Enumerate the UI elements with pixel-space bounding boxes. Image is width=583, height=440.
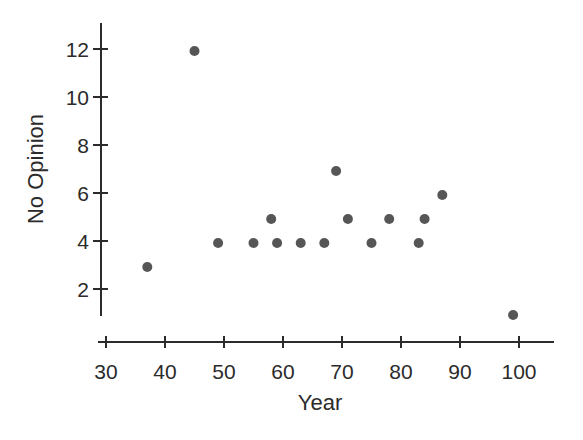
data-point bbox=[190, 46, 200, 56]
y-tick-label: 10 bbox=[66, 86, 89, 109]
data-point bbox=[213, 238, 223, 248]
data-point bbox=[343, 214, 353, 224]
data-point bbox=[331, 166, 341, 176]
x-axis-title: Year bbox=[298, 390, 342, 415]
x-tick-label: 90 bbox=[448, 360, 471, 383]
data-point bbox=[414, 238, 424, 248]
x-tick-label: 60 bbox=[271, 360, 294, 383]
data-point bbox=[249, 238, 259, 248]
data-point bbox=[420, 214, 430, 224]
data-point bbox=[266, 214, 276, 224]
x-tick-label: 40 bbox=[153, 360, 176, 383]
x-tick-label: 70 bbox=[330, 360, 353, 383]
scatter-plot-canvas: 24681012 30405060708090100 No Opinion Ye… bbox=[0, 0, 583, 440]
data-point bbox=[296, 238, 306, 248]
x-tick-label: 30 bbox=[94, 360, 117, 383]
y-axis-title: No Opinion bbox=[23, 114, 48, 224]
y-tick-label: 2 bbox=[77, 278, 89, 301]
y-tick-label: 4 bbox=[77, 230, 89, 253]
y-tick-label: 12 bbox=[66, 38, 89, 61]
x-tick-label: 50 bbox=[212, 360, 235, 383]
data-points bbox=[142, 46, 518, 320]
y-tick-label: 6 bbox=[77, 182, 89, 205]
data-point bbox=[367, 238, 377, 248]
data-point bbox=[508, 310, 518, 320]
x-tick-label: 80 bbox=[389, 360, 412, 383]
data-point bbox=[142, 262, 152, 272]
data-point bbox=[384, 214, 394, 224]
x-axis: 30405060708090100 bbox=[94, 336, 554, 383]
y-tick-label: 8 bbox=[77, 134, 89, 157]
data-point bbox=[272, 238, 282, 248]
y-axis: 24681012 bbox=[66, 23, 108, 316]
scatter-plot-figure: 24681012 30405060708090100 No Opinion Ye… bbox=[0, 0, 583, 440]
data-point bbox=[319, 238, 329, 248]
x-tick-label: 100 bbox=[501, 360, 536, 383]
data-point bbox=[437, 190, 447, 200]
